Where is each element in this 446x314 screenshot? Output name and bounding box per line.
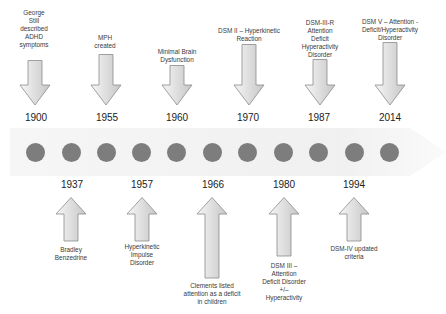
event-label-1900: GeorgeStilldescribedADHDsymptoms [9,9,59,49]
up-arrow-icon [268,197,300,257]
year-1957: 1957 [122,179,162,190]
timeline-dot [132,143,151,162]
year-1987: 1987 [299,112,339,123]
timeline-dot [380,143,399,162]
down-arrow-icon [304,59,336,106]
timeline-dot [345,143,364,162]
event-label-1937: BradleyBenzedrine [46,246,96,262]
event-label-1955: MPHcreated [80,34,130,50]
year-1970: 1970 [228,112,268,123]
year-1994: 1994 [334,179,374,190]
event-label-2014: DSM V – Attention -Deficit/Hyperactivity… [350,18,430,42]
up-arrow-icon [338,197,370,242]
event-label-1970: DSM II – HyperkineticReaction [209,27,289,43]
year-1937: 1937 [52,179,92,190]
year-1980: 1980 [264,179,304,190]
year-2014: 2014 [370,112,410,123]
up-arrow-icon [126,197,158,242]
down-arrow-icon [19,60,51,106]
timeline-dot [97,143,116,162]
down-arrow-icon [90,54,122,106]
timeline-dot [203,143,222,162]
event-label-1960: Minimal BrainDysfunction [145,48,209,64]
event-label-1987: DSM-III-RAttentionDeficitHyperactivityDi… [295,19,345,59]
timeline-dot [167,143,186,162]
down-arrow-icon [233,44,265,106]
year-1900: 1900 [16,112,56,123]
timeline-dot [238,143,257,162]
year-1966: 1966 [193,179,233,190]
event-label-1957: HyperkineticImpulseDisorder [117,243,167,267]
event-label-1966: Clements listedattention as a deficitin … [177,282,247,306]
timeline-dot [274,143,293,162]
year-1960: 1960 [157,112,197,123]
timeline-dot [62,143,81,162]
up-arrow-icon [55,197,87,242]
up-arrow-icon [196,197,228,279]
event-label-1994: DSM-IV updatedcriteria [324,245,384,261]
timeline-dot [26,143,45,162]
down-arrow-icon [374,42,406,106]
event-label-1980: DSM III –AttentionDeficit Disorder+/–Hyp… [254,262,314,302]
timeline-dot [309,143,328,162]
down-arrow-icon [161,65,193,106]
year-1955: 1955 [87,112,127,123]
